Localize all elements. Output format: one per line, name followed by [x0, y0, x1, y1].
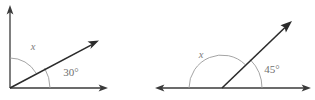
left-known-angle-label: 30°: [63, 66, 78, 78]
angle-diagram-figure: x 30° x 45°: [0, 0, 315, 100]
left-unknown-angle-label: x: [30, 41, 36, 52]
right-known-angle-label: 45°: [264, 63, 279, 75]
figure-background: [0, 0, 315, 100]
right-unknown-angle-label: x: [198, 49, 204, 60]
